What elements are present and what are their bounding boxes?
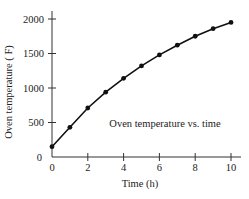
data-point-marker	[139, 64, 144, 69]
data-point-marker	[103, 90, 108, 95]
x-tick-label: 2	[85, 162, 90, 173]
data-point-marker	[229, 20, 234, 25]
data-point-marker	[157, 52, 162, 57]
x-axis-ticks: 0246810	[49, 153, 236, 173]
x-tick-label: 4	[121, 162, 127, 173]
data-point-marker	[85, 106, 90, 111]
data-point-marker	[68, 125, 73, 130]
x-tick-label: 8	[193, 162, 198, 173]
data-series	[50, 20, 234, 149]
chart: 0500100015002000 0246810 Oven temperatur…	[0, 0, 249, 199]
y-axis-label: Oven temperature ( F)	[3, 45, 15, 139]
y-tick-label: 2000	[23, 14, 44, 25]
x-tick-label: 6	[157, 162, 162, 173]
y-tick-label: 1500	[23, 48, 44, 59]
data-point-marker	[121, 76, 126, 81]
axes	[52, 11, 241, 157]
y-axis-ticks: 0500100015002000	[23, 14, 56, 163]
x-axis-label: Time (h)	[122, 178, 159, 190]
y-tick-label: 500	[28, 117, 44, 128]
x-tick-label: 0	[49, 162, 54, 173]
y-tick-label: 0	[37, 152, 42, 163]
y-tick-label: 1000	[23, 83, 44, 94]
data-point-marker	[211, 26, 216, 31]
x-tick-label: 10	[226, 162, 237, 173]
data-point-marker	[50, 144, 55, 149]
chart-annotation: Oven temperature vs. time	[109, 118, 221, 129]
data-point-marker	[193, 34, 198, 39]
data-point-marker	[175, 43, 180, 48]
